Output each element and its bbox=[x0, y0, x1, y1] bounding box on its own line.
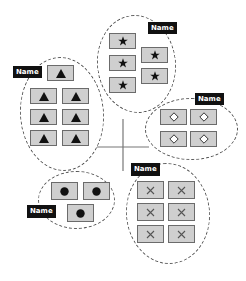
circle-icon bbox=[92, 187, 101, 196]
circle-box bbox=[51, 182, 78, 200]
triangle-box bbox=[30, 88, 57, 104]
diamond-box bbox=[190, 109, 217, 125]
triangle-icon bbox=[71, 134, 81, 143]
triangle-icon bbox=[39, 113, 49, 122]
circle-icon bbox=[60, 187, 69, 196]
diamond-icon bbox=[199, 134, 209, 144]
star-icon bbox=[118, 80, 128, 90]
circles-group-label: Name bbox=[27, 205, 56, 218]
star-box bbox=[109, 55, 136, 71]
cross-icon bbox=[146, 186, 155, 195]
triangle-box bbox=[62, 88, 89, 104]
diamond-box bbox=[160, 109, 187, 125]
star-box bbox=[141, 47, 168, 63]
cross-box bbox=[137, 203, 164, 221]
cross-icon bbox=[146, 208, 155, 217]
triangle-box bbox=[30, 109, 57, 125]
cross-box bbox=[168, 181, 195, 199]
triangle-icon bbox=[39, 134, 49, 143]
star-icon bbox=[118, 36, 128, 46]
diamonds-group-ellipse bbox=[145, 98, 238, 160]
cross-icon bbox=[177, 230, 186, 239]
triangle-box bbox=[62, 130, 89, 146]
diamond-box bbox=[160, 131, 187, 147]
diamond-box bbox=[190, 131, 217, 147]
triangle-box bbox=[30, 130, 57, 146]
cross-box bbox=[168, 225, 195, 243]
cross-box bbox=[137, 225, 164, 243]
triangle-icon bbox=[39, 92, 49, 101]
diamond-icon bbox=[169, 112, 179, 122]
crosses-group-label: Name bbox=[131, 163, 160, 176]
triangle-icon bbox=[71, 92, 81, 101]
cross-box bbox=[137, 181, 164, 199]
star-icon bbox=[150, 71, 160, 81]
star-icon bbox=[118, 58, 128, 68]
triangle-box bbox=[62, 109, 89, 125]
cross-icon bbox=[146, 230, 155, 239]
stars-group-label: Name bbox=[148, 22, 177, 34]
cross-box bbox=[168, 203, 195, 221]
star-box bbox=[109, 33, 136, 49]
cross-icon bbox=[177, 186, 186, 195]
star-box bbox=[109, 77, 136, 93]
diamond-icon bbox=[169, 134, 179, 144]
diamonds-group-label: Name bbox=[195, 93, 224, 105]
circle-box bbox=[67, 204, 94, 222]
star-box bbox=[141, 68, 168, 84]
triangle-box bbox=[47, 65, 74, 81]
triangle-icon bbox=[71, 113, 81, 122]
diamond-icon bbox=[199, 112, 209, 122]
star-icon bbox=[150, 50, 160, 60]
triangles-group-label: Name bbox=[13, 66, 42, 78]
circle-box bbox=[83, 182, 110, 200]
cross-icon bbox=[177, 208, 186, 217]
circle-icon bbox=[76, 209, 85, 218]
triangle-icon bbox=[56, 69, 66, 78]
